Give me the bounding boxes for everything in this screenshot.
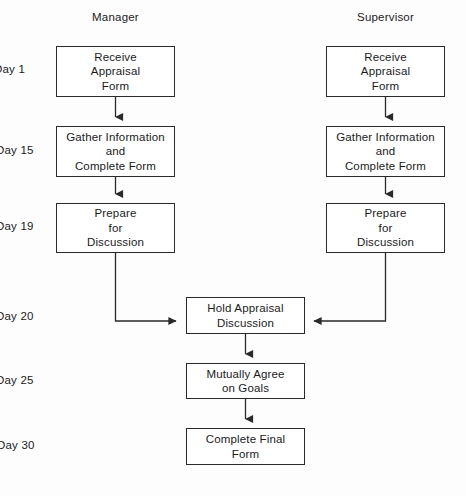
timeline-label-day25-text: Day 25 xyxy=(0,374,34,386)
timeline-label-day30: Day 30 xyxy=(0,439,35,451)
node-mutually-agree-on-goals-label: Mutually Agree on Goals xyxy=(206,367,284,396)
timeline-label-day15: Day 15 xyxy=(0,144,34,156)
node-supervisor-receive-appraisal-form-label: Receive Appraisal Form xyxy=(361,50,410,94)
node-complete-final-form: Complete Final Form xyxy=(186,428,305,465)
timeline-label-day1-text: Day 1 xyxy=(0,63,25,75)
node-manager-receive-appraisal-form: Receive Appraisal Form xyxy=(56,46,175,97)
node-supervisor-gather-information-label: Gather Information and Complete Form xyxy=(336,130,435,174)
column-header-supervisor: Supervisor xyxy=(326,11,445,23)
timeline-label-day1: Day 1 xyxy=(0,63,25,75)
column-header-supervisor-label: Supervisor xyxy=(357,11,414,23)
node-manager-prepare-for-discussion-label: Prepare for Discussion xyxy=(87,206,144,250)
column-header-manager: Manager xyxy=(56,11,175,23)
node-supervisor-prepare-for-discussion: Prepare for Discussion xyxy=(326,203,445,253)
timeline-label-day19: Day 19 xyxy=(0,220,34,232)
connector-supervisor-prepare-to-hold xyxy=(314,253,386,321)
column-header-manager-label: Manager xyxy=(92,11,139,23)
node-manager-receive-appraisal-form-label: Receive Appraisal Form xyxy=(91,50,140,94)
timeline-label-day15-text: Day 15 xyxy=(0,144,34,156)
node-mutually-agree-on-goals: Mutually Agree on Goals xyxy=(186,363,305,399)
node-manager-prepare-for-discussion: Prepare for Discussion xyxy=(56,203,175,253)
timeline-label-day20-text: Day 20 xyxy=(0,310,34,322)
timeline-label-day20: Day 20 xyxy=(0,310,34,322)
node-supervisor-receive-appraisal-form: Receive Appraisal Form xyxy=(326,46,445,97)
timeline-label-day25: Day 25 xyxy=(0,374,34,386)
node-hold-appraisal-discussion-label: Hold Appraisal Discussion xyxy=(207,301,283,330)
node-supervisor-prepare-for-discussion-label: Prepare for Discussion xyxy=(357,206,414,250)
connector-manager-prepare-to-hold xyxy=(116,253,177,321)
node-hold-appraisal-discussion: Hold Appraisal Discussion xyxy=(186,297,305,334)
timeline-label-day19-text: Day 19 xyxy=(0,220,34,232)
flowchart-diagram: Manager Supervisor Day 1 Day 15 Day 19 D… xyxy=(0,0,466,496)
node-manager-gather-information-label: Gather Information and Complete Form xyxy=(66,130,165,174)
timeline-label-day30-text: Day 30 xyxy=(0,439,35,451)
node-supervisor-gather-information: Gather Information and Complete Form xyxy=(326,126,445,177)
node-manager-gather-information: Gather Information and Complete Form xyxy=(56,126,175,177)
node-complete-final-form-label: Complete Final Form xyxy=(206,432,285,461)
